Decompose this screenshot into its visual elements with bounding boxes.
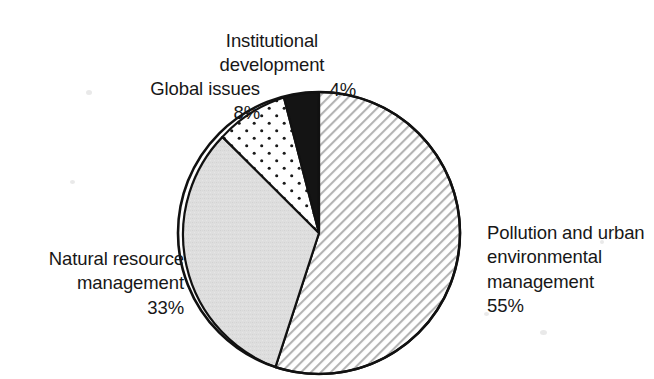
pie-label-global-issues-percent: 8%: [84, 101, 260, 126]
pie-label-pollution-urban-environmental-management-name: Pollution and urban environmental manage…: [487, 222, 645, 292]
pie-label-natural-resource-management-percent: 33%: [2, 296, 184, 321]
pie-label-pollution-urban-environmental-management: Pollution and urban environmental manage…: [487, 196, 654, 343]
pie-label-natural-resource-management: Natural resource management 33%: [2, 222, 184, 345]
pie-label-pollution-urban-environmental-management-percent: 55%: [487, 294, 654, 319]
pie-chart-figure: Institutional development 4% Global issu…: [0, 0, 654, 379]
pie-label-global-issues: Global issues 8%: [84, 52, 260, 150]
pie-label-global-issues-name: Global issues: [150, 78, 260, 99]
pie-label-natural-resource-management-name: Natural resource management: [49, 248, 184, 294]
scan-speckle: [70, 180, 75, 184]
